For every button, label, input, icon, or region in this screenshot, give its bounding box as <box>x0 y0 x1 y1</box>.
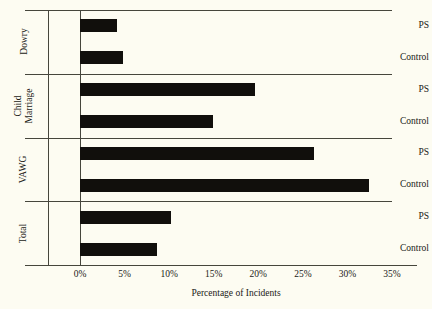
group-label-child-marriage: Child Marriage <box>0 74 48 138</box>
bar-vawg-control <box>80 179 369 192</box>
group-label-dowry: Dowry <box>0 10 48 74</box>
bar-vawg-ps <box>80 147 314 160</box>
bar-chart: DowryChild MarriageVAWGTotal PSControlPS… <box>0 0 432 309</box>
bar-dowry-ps <box>80 19 117 32</box>
group-label-text: Dowry <box>18 29 29 55</box>
x-tick-label: 35% <box>372 269 412 279</box>
x-tick-label: 10% <box>149 269 189 279</box>
x-tick-label: 30% <box>327 269 367 279</box>
bar-total-control <box>80 243 157 256</box>
plot-area <box>80 10 392 265</box>
x-tick-label: 15% <box>194 269 234 279</box>
group-label-rule <box>48 10 49 74</box>
x-tick-label: 0% <box>60 269 100 279</box>
group-label-text: Total <box>18 223 29 242</box>
bar-dowry-control <box>80 51 123 64</box>
group-label-vawg: VAWG <box>0 138 48 202</box>
bar-child-marriage-ps <box>80 83 255 96</box>
group-label-rule <box>48 201 49 265</box>
x-axis-label: Percentage of Incidents <box>80 288 392 298</box>
group-label-text: Child Marriage <box>13 82 35 130</box>
bar-child-marriage-control <box>80 115 213 128</box>
x-axis-line <box>25 265 417 266</box>
x-tick-label: 25% <box>283 269 323 279</box>
x-tick-label: 20% <box>238 269 278 279</box>
bar-total-ps <box>80 211 171 224</box>
group-label-total: Total <box>0 201 48 265</box>
group-label-text: VAWG <box>18 156 29 184</box>
x-tick-label: 5% <box>105 269 145 279</box>
group-label-rule <box>48 74 49 138</box>
group-label-rule <box>48 138 49 202</box>
